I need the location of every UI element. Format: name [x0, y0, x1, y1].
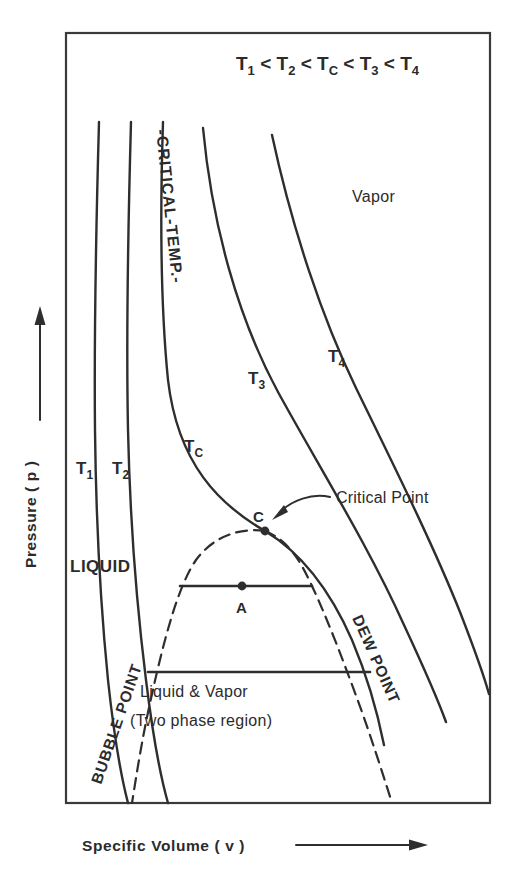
point-marker-A: [238, 582, 247, 591]
region-label-two-phase-line1: Liquid & Vapor: [140, 683, 248, 700]
x-axis-arrow: [296, 840, 428, 851]
ineq-T2-sub: 2: [288, 63, 295, 78]
region-label-two-phase-line2: (Two phase region): [130, 712, 272, 729]
point-label-C: C: [253, 508, 264, 525]
point-marker-C: [261, 527, 270, 536]
ineq-T4-sub: 4: [412, 63, 420, 78]
ineq-op-3: <: [343, 53, 354, 74]
ineq-op-4: <: [384, 53, 395, 74]
ineq-op-2: <: [301, 53, 312, 74]
ineq-op-1: <: [260, 53, 271, 74]
ineq-T2: T: [277, 53, 289, 74]
critical-point-label: Critical Point: [336, 489, 429, 506]
ineq-T1: T: [236, 53, 248, 74]
x-axis-label: Specific Volume ( v ): [82, 837, 245, 854]
ineq-T3: T: [360, 53, 372, 74]
region-label-liquid: LIQUID: [70, 557, 131, 576]
ineq-T3-sub: 3: [371, 63, 378, 78]
ineq-TC: T: [317, 53, 329, 74]
region-label-vapor: Vapor: [352, 188, 395, 205]
y-axis-arrow: [35, 306, 46, 420]
point-label-A: A: [236, 599, 247, 616]
ineq-T1-sub: 1: [248, 63, 255, 78]
pv-diagram-figure: Pressure ( p ) Specific Volume ( v ) T1 …: [0, 0, 506, 881]
y-axis-label: Pressure ( p ): [22, 461, 39, 568]
ineq-T4: T: [400, 53, 412, 74]
